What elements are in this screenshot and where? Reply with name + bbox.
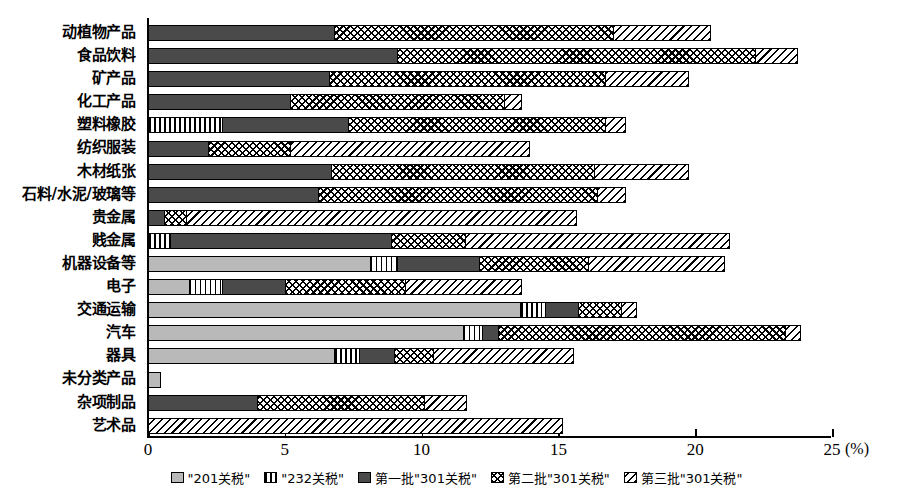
bar-segment bbox=[171, 234, 393, 248]
legend-swatch bbox=[624, 472, 637, 483]
bar-segment bbox=[406, 280, 521, 294]
bar-segment bbox=[187, 211, 576, 225]
bar-segment bbox=[165, 211, 187, 225]
stacked-bar bbox=[148, 187, 626, 203]
bar-row bbox=[0, 21, 913, 44]
bar-segment bbox=[598, 188, 625, 202]
x-axis-tick-label: 15 bbox=[550, 440, 567, 460]
bar-segment bbox=[223, 118, 349, 132]
legend-swatch bbox=[358, 472, 371, 483]
legend-label: "201关税" bbox=[188, 468, 251, 487]
bar-segment bbox=[434, 349, 574, 363]
bar-segment bbox=[291, 95, 504, 109]
stacked-bar bbox=[148, 395, 467, 411]
bar-segment bbox=[291, 142, 529, 156]
bar-segment bbox=[579, 303, 623, 317]
bar-row bbox=[0, 275, 913, 298]
bar-segment bbox=[360, 349, 396, 363]
legend-swatch bbox=[264, 472, 277, 483]
x-axis-tick-label: 25 bbox=[824, 440, 841, 460]
legend-item: 第一批"301关税" bbox=[358, 468, 477, 487]
legend-swatch bbox=[491, 472, 504, 483]
bar-segment bbox=[149, 211, 165, 225]
stacked-bar bbox=[148, 372, 161, 388]
bar-row bbox=[0, 160, 913, 183]
bar-segment bbox=[466, 234, 729, 248]
bar-segment bbox=[149, 326, 464, 340]
stacked-bar bbox=[148, 279, 522, 295]
bar-segment bbox=[425, 396, 466, 410]
bar-row bbox=[0, 368, 913, 391]
bar-segment bbox=[330, 72, 606, 86]
bar-row bbox=[0, 229, 913, 252]
bar-row bbox=[0, 67, 913, 90]
x-axis-tick-label: 10 bbox=[413, 440, 430, 460]
bar-row bbox=[0, 206, 913, 229]
legend-label: 第二批"301关税" bbox=[508, 468, 610, 487]
bar-segment bbox=[622, 303, 636, 317]
bar-segment bbox=[149, 49, 398, 63]
legend-label: 第三批"301关税" bbox=[641, 468, 743, 487]
bar-segment bbox=[209, 142, 291, 156]
bar-segment bbox=[149, 234, 171, 248]
bar-segment bbox=[149, 165, 332, 179]
bar-row bbox=[0, 183, 913, 206]
stacked-bar-chart: 动植物产品食品饮料矿产品化工产品塑料橡胶纺织服装木材纸张石料/水泥/玻璃等贵金属… bbox=[0, 0, 913, 487]
bar-segment bbox=[149, 72, 330, 86]
bar-segment bbox=[149, 396, 258, 410]
x-axis-tick-label: 5 bbox=[281, 440, 290, 460]
bar-segment bbox=[149, 349, 335, 363]
bar-segment bbox=[223, 280, 286, 294]
legend-item: 第三批"301关税" bbox=[624, 468, 743, 487]
bar-segment bbox=[595, 165, 688, 179]
bar-segment bbox=[371, 257, 398, 271]
stacked-bar bbox=[148, 48, 798, 64]
bar-segment bbox=[392, 234, 466, 248]
bar-segment bbox=[483, 326, 499, 340]
bar-segment bbox=[606, 118, 625, 132]
bar-segment bbox=[480, 257, 589, 271]
bar-segment bbox=[398, 257, 480, 271]
bar-segment bbox=[756, 49, 797, 63]
bar-segment bbox=[505, 95, 521, 109]
bar-row bbox=[0, 90, 913, 113]
bar-segment bbox=[614, 26, 710, 40]
bar-segment bbox=[149, 280, 190, 294]
stacked-bar bbox=[148, 25, 711, 41]
bar-segment bbox=[149, 188, 319, 202]
bar-segment bbox=[149, 26, 335, 40]
bar-row bbox=[0, 113, 913, 136]
legend-label: 第一批"301关税" bbox=[375, 468, 477, 487]
bar-segment bbox=[149, 419, 562, 433]
x-axis-unit-label: (%) bbox=[845, 440, 869, 458]
bar-segment bbox=[521, 303, 546, 317]
bar-segment bbox=[332, 165, 595, 179]
bar-segment bbox=[335, 26, 614, 40]
stacked-bar bbox=[148, 256, 725, 272]
stacked-bar bbox=[148, 233, 730, 249]
stacked-bar bbox=[148, 71, 689, 87]
stacked-bar bbox=[148, 141, 530, 157]
bar-segment bbox=[335, 349, 360, 363]
bar-segment bbox=[190, 280, 223, 294]
bar-row bbox=[0, 137, 913, 160]
legend-label: "232关税" bbox=[281, 468, 344, 487]
stacked-bar bbox=[148, 325, 801, 341]
bar-segment bbox=[395, 349, 433, 363]
x-axis-tick-label: 20 bbox=[687, 440, 704, 460]
bar-row bbox=[0, 298, 913, 321]
legend-item: "201关税" bbox=[171, 468, 251, 487]
bar-segment bbox=[499, 326, 786, 340]
bar-segment bbox=[349, 118, 606, 132]
bar-segment bbox=[589, 257, 723, 271]
stacked-bar bbox=[148, 94, 522, 110]
bar-segment bbox=[786, 326, 800, 340]
bar-segment bbox=[398, 49, 756, 63]
bar-segment bbox=[286, 280, 406, 294]
bar-segment bbox=[149, 257, 371, 271]
stacked-bar bbox=[148, 164, 689, 180]
bar-segment bbox=[464, 326, 483, 340]
stacked-bar bbox=[148, 418, 563, 434]
stacked-bar bbox=[148, 117, 626, 133]
bar-row bbox=[0, 44, 913, 67]
